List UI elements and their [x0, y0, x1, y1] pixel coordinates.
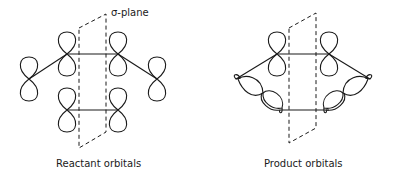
sigma-plane-label: σ-plane [111, 7, 149, 18]
p-orbital-left-terminal [20, 57, 37, 101]
product-caption: Product orbitals [264, 158, 343, 169]
reactant-caption: Reactant orbitals [56, 158, 141, 169]
product-diagram: Product orbitals [234, 13, 372, 169]
p-orbital-right-terminal [148, 57, 165, 101]
sigma-orbital-right [323, 75, 371, 113]
orbital-diagram: σ-plane Reactant orbitals Produc [0, 0, 395, 182]
bond-left-diagonal [29, 54, 67, 79]
reactant-diagram: σ-plane Reactant orbitals [20, 7, 165, 169]
sigma-plane [79, 14, 106, 148]
sigma-orbital-left [234, 75, 282, 113]
sigma-plane-product [289, 13, 316, 143]
bond-right-diagonal [118, 54, 157, 79]
bond-left-diagonal-product [236, 54, 277, 79]
bond-right-diagonal-product [329, 54, 370, 79]
